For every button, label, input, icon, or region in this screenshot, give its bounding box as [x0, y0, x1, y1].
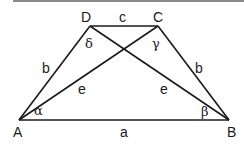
side-label-b-left: b — [42, 60, 50, 76]
angle-delta: δ — [85, 36, 93, 51]
diagonal-label-e-right: e — [160, 81, 168, 97]
side-b-left — [19, 26, 90, 120]
vertex-label-a: A — [13, 124, 23, 140]
vertex-label-c: C — [153, 9, 163, 25]
vertex-label-b: B — [227, 124, 236, 140]
angle-gamma: γ — [152, 36, 160, 51]
trapezoid-diagram: D C A B c a b b e e α β γ δ — [0, 0, 244, 150]
vertex-label-d: D — [81, 9, 91, 25]
side-label-b-right: b — [195, 60, 203, 76]
side-b-right — [158, 26, 229, 120]
angle-beta: β — [201, 104, 209, 119]
side-label-c: c — [119, 9, 126, 25]
side-label-a: a — [120, 124, 128, 140]
diagonal-label-e-left: e — [78, 81, 86, 97]
angle-alpha: α — [34, 103, 43, 118]
